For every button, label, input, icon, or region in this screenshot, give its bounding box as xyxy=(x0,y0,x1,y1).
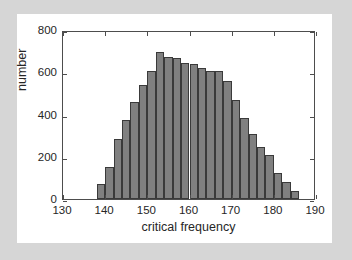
histogram-bar xyxy=(122,120,130,199)
histogram-bar xyxy=(190,64,198,199)
y-tick-mark xyxy=(63,159,67,160)
x-tick-mark xyxy=(63,32,64,36)
x-tick-mark xyxy=(147,32,148,36)
histogram-bar xyxy=(291,191,299,199)
y-tick-mark xyxy=(63,117,67,118)
histogram-bar xyxy=(198,68,206,199)
y-tick-label: 200 xyxy=(38,152,57,164)
histogram-bar xyxy=(249,134,257,199)
histogram-bar xyxy=(173,58,181,199)
x-tick-mark xyxy=(105,32,106,36)
x-tick-mark xyxy=(232,32,233,36)
y-tick-mark xyxy=(310,201,314,202)
histogram-bar xyxy=(240,118,248,199)
histogram-bar xyxy=(147,71,155,199)
y-tick-mark xyxy=(310,32,314,33)
x-tick-mark xyxy=(147,195,148,199)
histogram-bar xyxy=(105,167,113,199)
histogram-bar xyxy=(164,57,172,199)
histogram-bar xyxy=(282,182,290,199)
x-tick-mark xyxy=(63,195,64,199)
histogram-bar xyxy=(181,63,189,199)
y-tick-mark xyxy=(63,74,67,75)
x-tick-mark xyxy=(274,32,275,36)
y-tick-label: 400 xyxy=(38,110,57,122)
figure-canvas: number 0200400600800 1301401501601701801… xyxy=(17,14,332,243)
histogram-bars xyxy=(63,32,314,199)
x-tick-label: 160 xyxy=(169,205,209,217)
x-tick-mark xyxy=(316,195,317,199)
x-tick-label: 190 xyxy=(295,205,335,217)
histogram-bar xyxy=(206,71,214,199)
x-tick-label: 170 xyxy=(211,205,251,217)
histogram-bar xyxy=(215,71,223,199)
histogram-bar xyxy=(257,147,265,199)
histogram-bar xyxy=(97,184,105,199)
histogram-bar xyxy=(114,139,122,199)
histogram-bar xyxy=(130,102,138,199)
x-tick-mark xyxy=(190,32,191,36)
y-tick-label: 600 xyxy=(38,67,57,79)
histogram-bar xyxy=(139,85,147,199)
histogram-bar xyxy=(274,173,282,199)
y-tick-mark xyxy=(63,201,67,202)
x-tick-mark xyxy=(190,195,191,199)
x-axis-label: critical frequency xyxy=(62,220,315,234)
x-tick-mark xyxy=(105,195,106,199)
x-tick-label: 150 xyxy=(126,205,166,217)
histogram-bar xyxy=(232,100,240,199)
x-tick-mark xyxy=(316,32,317,36)
x-tick-label: 140 xyxy=(84,205,124,217)
x-tick-mark xyxy=(232,195,233,199)
histogram-bar xyxy=(223,81,231,199)
y-tick-mark xyxy=(310,159,314,160)
y-tick-mark xyxy=(310,117,314,118)
y-tick-mark xyxy=(310,74,314,75)
histogram-bar xyxy=(156,52,164,199)
x-tick-mark xyxy=(274,195,275,199)
x-tick-label: 130 xyxy=(42,205,82,217)
histogram-bar xyxy=(265,155,273,199)
plot-area xyxy=(62,31,315,200)
y-axis-label: number xyxy=(15,49,29,91)
y-tick-label: 800 xyxy=(38,25,57,37)
x-tick-label: 180 xyxy=(253,205,293,217)
